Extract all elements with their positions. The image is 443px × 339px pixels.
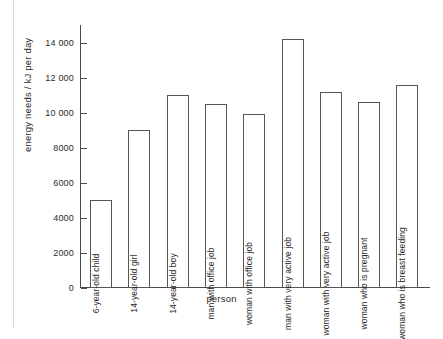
bar-category-label-text: woman with very active job [321,231,330,335]
bar: woman with very active job [320,92,342,288]
plot-area: 0200040006000800010 00012 00014 000 6-ye… [80,25,430,288]
bar-category-label: woman who is pregnant [361,237,370,329]
bar-category-label: woman with very active job [322,231,331,335]
x-axis-title: person [0,293,443,304]
y-axis-tick-label: 2000 [53,248,74,258]
bar: woman who is breast feeding [396,85,418,288]
bar-category-label: 14-year-old boy [169,253,178,314]
bar-category-label-text: 14-year-old boy [168,253,177,314]
bar-series: 6-year-old child14-year-old girl14-year-… [80,25,430,288]
bar: woman with office job [243,114,265,288]
y-axis-tick-label: 10 000 [45,108,74,118]
bar: man with very active job [282,39,304,288]
bar: 6-year-old child [90,200,112,288]
bar-category-label-text: man with very active job [283,236,292,329]
bar-category-label-text: woman who is pregnant [360,237,369,329]
y-axis-tick-label: 6000 [53,178,74,188]
bar: woman who is pregnant [358,102,380,288]
bar-category-label-text: woman with office job [245,241,254,324]
bar: 14-year-old girl [128,130,150,288]
bar-category-label: woman with office job [246,241,255,324]
bar-category-label: woman who is breast feeding [399,227,408,339]
bar: man with office job [205,104,227,288]
bar: 14-year-old boy [167,95,189,288]
bar-category-label: man with office job [207,247,216,319]
y-axis-tick-label: 14 000 [45,38,74,48]
y-axis-tick-label: 0 [69,283,74,293]
bar-category-label-text: woman who is breast feeding [398,227,407,339]
y-axis-tick-label: 8000 [53,143,74,153]
y-axis-tick-label: 12 000 [45,73,74,83]
y-axis-tick [81,288,87,289]
y-axis-tick-labels: 0200040006000800010 00012 00014 000 [8,25,74,288]
bar-category-label: man with very active job [284,236,293,329]
y-axis-title: energy needs / kJ per day [22,38,33,152]
y-axis-tick-label: 4000 [53,213,74,223]
bar-category-label-text: man with office job [206,247,215,319]
